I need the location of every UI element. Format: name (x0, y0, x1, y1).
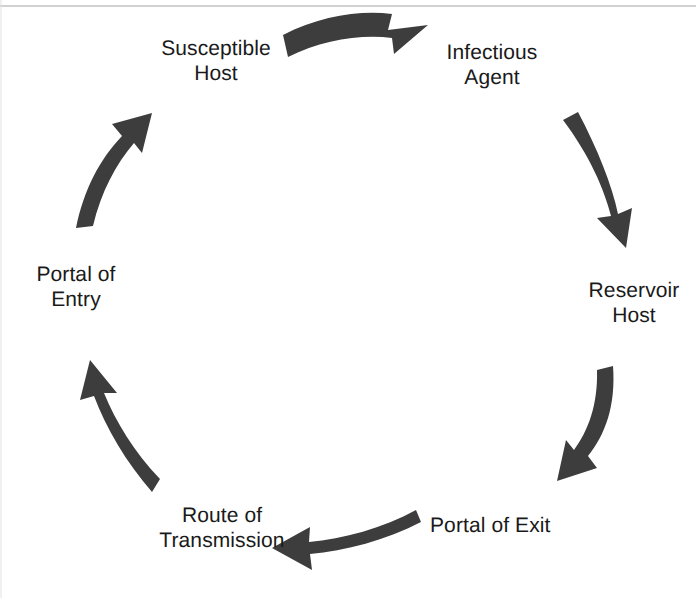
arrow-susceptible-to-infectious-icon (283, 13, 428, 57)
arrow-entry-to-susceptible-icon (76, 113, 152, 228)
node-label-reservoir-host: Reservoir Host (584, 278, 684, 328)
arrow-transmission-to-entry-icon (80, 360, 160, 492)
node-label-susceptible-host: Susceptible Host (160, 36, 272, 86)
node-label-portal-of-entry: Portal of Entry (28, 262, 124, 312)
node-label-route-of-transmission: Route of Transmission (152, 503, 292, 553)
arrow-exit-to-transmission-icon (272, 510, 421, 570)
node-label-portal-of-exit: Portal of Exit (430, 513, 564, 538)
arrow-infectious-to-reservoir-icon (563, 112, 632, 248)
arrow-reservoir-to-exit-icon (557, 366, 613, 481)
infection-cycle-diagram: Susceptible Host Infectious Agent Reserv… (0, 0, 696, 598)
node-label-infectious-agent: Infectious Agent (446, 40, 538, 90)
